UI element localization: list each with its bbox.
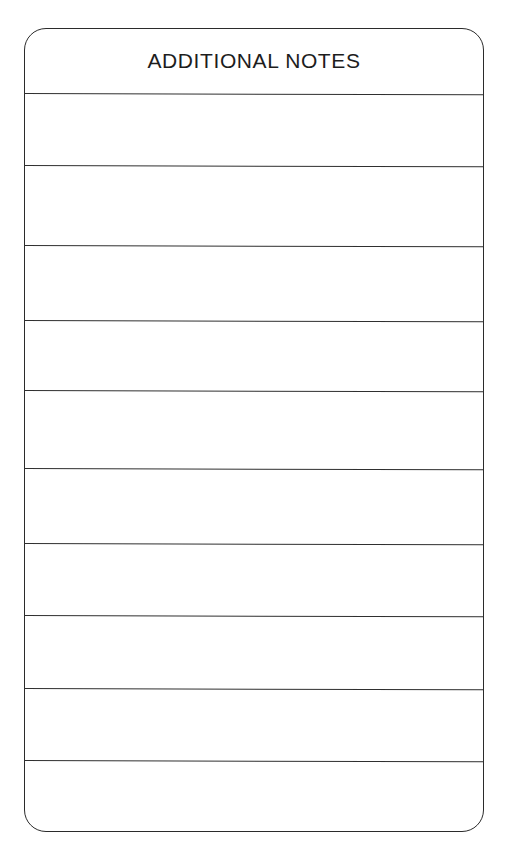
note-row[interactable] <box>24 245 484 320</box>
note-row[interactable] <box>24 390 484 468</box>
note-row-value[interactable] <box>24 468 484 477</box>
note-row[interactable] <box>24 688 484 760</box>
note-rows-layer <box>24 28 484 832</box>
note-row-value[interactable] <box>24 615 484 624</box>
note-row[interactable] <box>24 543 484 615</box>
note-row-value[interactable] <box>24 245 484 254</box>
note-row[interactable] <box>24 93 484 165</box>
note-row[interactable] <box>24 165 484 245</box>
note-row-value[interactable] <box>24 165 484 174</box>
note-row-value[interactable] <box>24 93 484 102</box>
note-row[interactable] <box>24 760 484 832</box>
note-row-value[interactable] <box>24 760 484 769</box>
page-canvas: ADDITIONAL NOTES <box>0 0 510 848</box>
note-row[interactable] <box>24 468 484 543</box>
note-row-value[interactable] <box>24 320 484 329</box>
note-row-value[interactable] <box>24 688 484 697</box>
note-row[interactable] <box>24 615 484 688</box>
note-row-value[interactable] <box>24 543 484 552</box>
note-row-value[interactable] <box>24 390 484 399</box>
note-row[interactable] <box>24 320 484 390</box>
